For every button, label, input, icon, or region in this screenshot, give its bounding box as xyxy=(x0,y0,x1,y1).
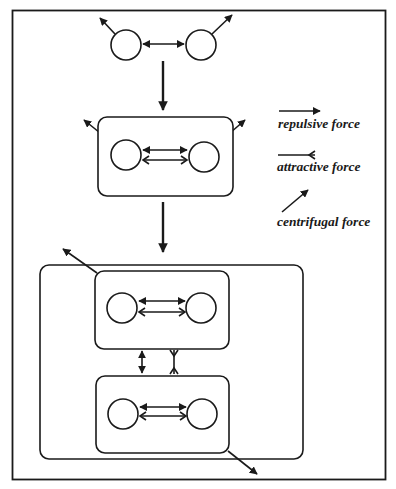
centrifugal-arrow-icon xyxy=(282,190,308,212)
stage-3 xyxy=(40,249,303,474)
stage-1 xyxy=(100,15,232,60)
legend-label: centrifugal force xyxy=(277,214,370,229)
node xyxy=(189,142,219,172)
legend-item-repulsive: repulsive force xyxy=(278,111,360,131)
legend-label: repulsive force xyxy=(278,116,360,131)
centrifugal-arrow xyxy=(100,18,115,34)
legend-label: attractive force xyxy=(277,159,361,174)
node xyxy=(107,293,137,323)
centrifugal-arrow xyxy=(212,15,232,34)
node xyxy=(108,399,138,429)
stage-2 xyxy=(84,117,245,196)
node xyxy=(187,399,217,429)
legend-item-attractive: attractive force xyxy=(277,151,361,174)
node xyxy=(111,140,141,170)
node xyxy=(186,293,216,323)
force-diagram: repulsive force attractive force centrif… xyxy=(0,0,396,489)
legend-item-centrifugal: centrifugal force xyxy=(277,190,370,229)
node xyxy=(111,30,141,60)
node xyxy=(186,30,216,60)
legend: repulsive force attractive force centrif… xyxy=(277,111,370,229)
